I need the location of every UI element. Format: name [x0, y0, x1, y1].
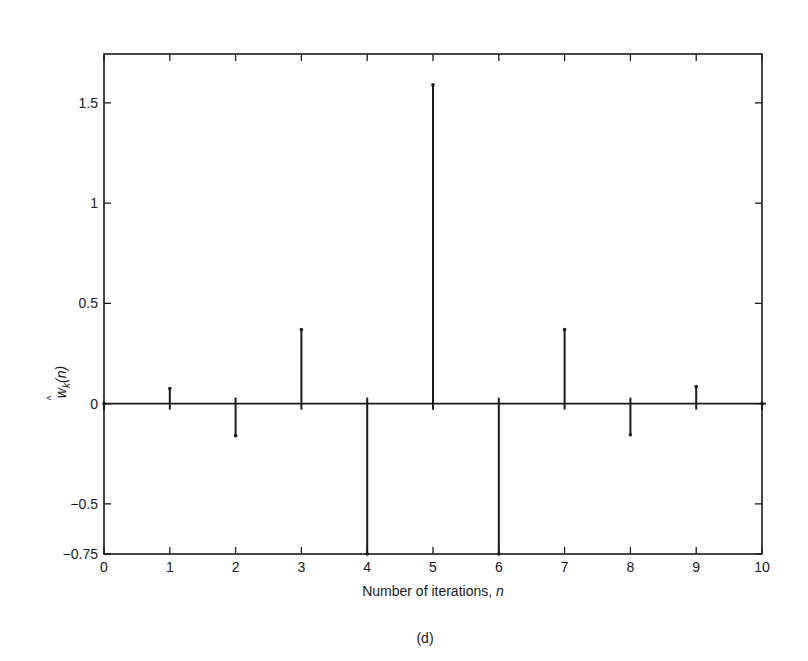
x-tick-label: 8: [627, 559, 635, 575]
hat-accent-icon: ^: [46, 395, 57, 400]
x-tick-label: 0: [100, 559, 108, 575]
stem-6: [497, 398, 501, 556]
x-tick-label: 10: [754, 559, 770, 575]
x-tick-label: 7: [561, 559, 569, 575]
y-tick-label: −0.75: [63, 546, 99, 562]
x-tick-label: 5: [429, 559, 437, 575]
plot-area: [102, 83, 766, 556]
x-axis-ticks: 012345678910: [100, 54, 770, 575]
y-tick-label: −0.5: [70, 496, 98, 512]
x-axis-label: Number of iterations, n: [362, 583, 504, 599]
stem-4: [365, 398, 369, 556]
y-axis-label: wk(n) ^: [46, 366, 72, 400]
x-tick-label: 2: [232, 559, 240, 575]
stem-marker: [563, 328, 567, 332]
stem-marker: [168, 387, 172, 391]
stem-1: [168, 387, 172, 410]
x-tick-label: 6: [495, 559, 503, 575]
stem-5: [431, 83, 435, 410]
stem-chart: 012345678910 −0.75−0.500.511.5 Number of…: [0, 0, 808, 661]
x-tick-label: 9: [692, 559, 700, 575]
x-tick-label: 3: [298, 559, 306, 575]
x-tick-label: 4: [363, 559, 371, 575]
stem-marker: [300, 328, 304, 332]
stem-3: [300, 328, 304, 410]
y-axis-ticks: −0.75−0.500.511.5: [63, 95, 762, 562]
stem-marker: [694, 385, 698, 389]
y-tick-label: 1: [90, 195, 98, 211]
y-tick-label: 0: [90, 396, 98, 412]
stem-9: [694, 385, 698, 410]
svg-text:wk(n): wk(n): [53, 366, 72, 398]
stem-7: [563, 328, 567, 410]
stem-marker: [431, 83, 435, 87]
stem-marker: [629, 433, 633, 437]
stem-marker: [234, 434, 238, 438]
figure-caption: (d): [416, 630, 433, 646]
y-tick-label: 0.5: [79, 295, 99, 311]
y-tick-label: 1.5: [79, 95, 99, 111]
x-tick-label: 1: [166, 559, 174, 575]
